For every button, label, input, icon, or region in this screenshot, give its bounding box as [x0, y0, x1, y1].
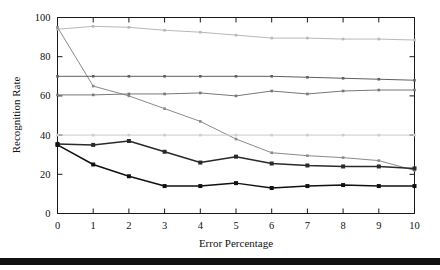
- series-marker: [342, 38, 345, 41]
- series-marker: [128, 93, 131, 96]
- series-marker: [270, 134, 273, 137]
- series-marker: [306, 37, 309, 40]
- series-marker: [235, 75, 238, 78]
- series-marker: [91, 163, 95, 167]
- series-marker: [91, 143, 95, 147]
- footer-rule: [0, 258, 440, 265]
- x-tick-label: 5: [233, 220, 238, 231]
- series-marker: [56, 75, 59, 78]
- x-tick-label: 0: [55, 220, 60, 231]
- series-marker: [235, 34, 238, 37]
- series-marker: [235, 134, 238, 137]
- series-marker: [163, 29, 166, 32]
- series-marker: [270, 162, 274, 166]
- series-marker: [92, 94, 95, 97]
- series-marker: [92, 75, 95, 78]
- series-marker: [270, 151, 273, 154]
- data-series: [56, 134, 416, 137]
- series-marker: [341, 164, 345, 168]
- x-axis-ticks: 012345678910: [55, 18, 420, 231]
- series-marker: [342, 90, 345, 93]
- series-marker: [378, 159, 381, 162]
- series-marker: [413, 184, 417, 188]
- series-marker: [235, 95, 238, 98]
- series-marker: [199, 75, 202, 78]
- series-marker: [305, 184, 309, 188]
- y-tick-label: 100: [35, 12, 51, 23]
- series-marker: [56, 94, 59, 97]
- series-marker: [341, 183, 345, 187]
- x-axis-label: Error Percentage: [199, 237, 273, 249]
- series-marker: [306, 93, 309, 96]
- series-marker: [128, 26, 131, 29]
- data-series: [56, 139, 417, 170]
- x-tick-label: 4: [198, 220, 204, 231]
- series-marker: [163, 75, 166, 78]
- y-tick-label: 80: [40, 51, 51, 62]
- y-tick-label: 0: [45, 208, 50, 219]
- series-marker: [127, 139, 131, 143]
- series-marker: [270, 186, 274, 190]
- series-marker: [305, 163, 309, 167]
- series-marker: [270, 75, 273, 78]
- series-marker: [234, 181, 238, 185]
- series-marker: [198, 161, 202, 165]
- x-tick-label: 2: [126, 220, 131, 231]
- series-marker: [199, 134, 202, 137]
- series-marker: [127, 174, 131, 178]
- x-tick-label: 3: [162, 220, 167, 231]
- series-marker: [413, 39, 416, 42]
- series-marker: [413, 134, 416, 137]
- y-axis-ticks: 020406080100: [35, 12, 415, 219]
- series-marker: [378, 78, 381, 81]
- series-marker: [306, 134, 309, 137]
- x-tick-label: 1: [91, 220, 96, 231]
- series-marker: [92, 85, 95, 88]
- series-marker: [377, 184, 381, 188]
- data-series: [56, 26, 416, 172]
- series-marker: [56, 143, 60, 147]
- series-marker: [128, 75, 131, 78]
- data-series-layer: [56, 25, 417, 190]
- x-tick-label: 10: [409, 220, 420, 231]
- series-marker: [199, 92, 202, 95]
- series-marker: [342, 134, 345, 137]
- series-marker: [92, 25, 95, 28]
- series-marker: [235, 138, 238, 141]
- x-tick-label: 9: [376, 220, 381, 231]
- recognition-rate-line-chart: Recognition Rate Error Percentage 020406…: [0, 0, 440, 270]
- x-tick-label: 7: [305, 220, 310, 231]
- series-marker: [342, 77, 345, 80]
- series-marker: [270, 37, 273, 40]
- series-marker: [234, 155, 238, 159]
- y-axis-label: Recognition Rate: [10, 77, 22, 154]
- series-marker: [56, 134, 59, 137]
- series-line: [58, 27, 415, 170]
- series-marker: [199, 31, 202, 34]
- series-marker: [163, 134, 166, 137]
- series-marker: [163, 184, 167, 188]
- series-marker: [128, 134, 131, 137]
- series-marker: [163, 107, 166, 110]
- series-marker: [413, 166, 417, 170]
- data-series: [56, 25, 416, 41]
- series-marker: [342, 156, 345, 159]
- data-series: [56, 89, 416, 97]
- x-tick-label: 6: [269, 220, 274, 231]
- series-marker: [270, 90, 273, 93]
- series-marker: [199, 120, 202, 123]
- series-marker: [92, 134, 95, 137]
- series-line: [58, 26, 415, 40]
- series-marker: [413, 79, 416, 82]
- y-tick-label: 20: [40, 169, 51, 180]
- x-tick-label: 8: [340, 220, 345, 231]
- series-marker: [413, 89, 416, 92]
- data-series: [56, 75, 416, 82]
- series-marker: [378, 134, 381, 137]
- y-tick-label: 40: [40, 130, 51, 141]
- series-marker: [198, 184, 202, 188]
- series-marker: [377, 164, 381, 168]
- series-marker: [378, 89, 381, 92]
- series-marker: [163, 150, 167, 154]
- series-marker: [306, 154, 309, 157]
